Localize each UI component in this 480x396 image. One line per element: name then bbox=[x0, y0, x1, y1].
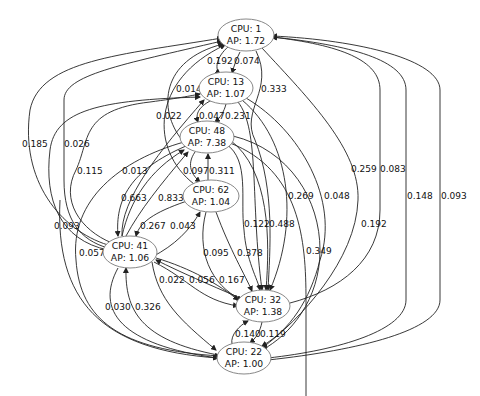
edge-weight-label: 0.185 bbox=[22, 139, 48, 149]
edge-weight-label: 0.097 bbox=[183, 166, 209, 176]
node-cpu-label: CPU: 41 bbox=[112, 240, 148, 251]
edge-weight-label: 0.333 bbox=[261, 84, 287, 94]
node-cpu-48[interactable]: CPU: 48 AP: 7.38 bbox=[180, 121, 234, 153]
edge-weight-label: 0.115 bbox=[77, 166, 103, 176]
edge-weight-label: 0.093 bbox=[441, 191, 467, 201]
edge-weight-label: 0.119 bbox=[260, 329, 286, 339]
node-cpu-label: CPU: 22 bbox=[226, 346, 262, 357]
edge-weight-label: 0.030 bbox=[105, 302, 131, 312]
edge-weight-label: 0.311 bbox=[209, 166, 235, 176]
node-cpu-41[interactable]: CPU: 41 AP: 1.06 bbox=[103, 236, 157, 268]
node-ap-label: AP: 1.07 bbox=[207, 88, 245, 99]
edge-weight-label: 0.231 bbox=[225, 111, 251, 121]
edge-weight-label: 0.349 bbox=[306, 246, 332, 256]
edge-weight-label: 0.056 bbox=[189, 275, 215, 285]
edge-weight-label: 0.167 bbox=[219, 275, 245, 285]
edge-weight-label: 0.378 bbox=[237, 248, 263, 258]
node-cpu-label: CPU: 1 bbox=[231, 23, 262, 34]
edge-weight-label: 0.326 bbox=[135, 302, 161, 312]
edge-weight-label: 0.014 bbox=[176, 84, 202, 94]
graph-canvas: 0.1920.0740.0140.3330.0220.0470.2310.185… bbox=[0, 0, 480, 396]
edge-weight-label: 0.043 bbox=[170, 221, 196, 231]
edge-weight-label: 0.488 bbox=[269, 219, 295, 229]
edge-weight-label: 0.192 bbox=[361, 219, 387, 229]
node-ap-label: AP: 7.38 bbox=[188, 137, 226, 148]
edge-weight-label: 0.026 bbox=[64, 139, 90, 149]
edge-weight-label: 0.057 bbox=[79, 248, 105, 258]
edge-weight-label: 0.022 bbox=[159, 275, 185, 285]
node-cpu-label: CPU: 13 bbox=[208, 76, 245, 87]
node-cpu-22[interactable]: CPU: 22 AP: 1.00 bbox=[217, 342, 271, 374]
node-ap-label: AP: 1.00 bbox=[225, 358, 263, 369]
node-ap-label: AP: 1.04 bbox=[192, 196, 230, 207]
edge-weight-label: 0.013 bbox=[122, 166, 148, 176]
edge-weight-label: 0.267 bbox=[140, 221, 166, 231]
edge-weight-label: 0.093 bbox=[54, 221, 80, 231]
edge-weight-label: 0.048 bbox=[324, 191, 350, 201]
edge-weight-label: 0.833 bbox=[158, 193, 184, 203]
edge-weight-label: 0.259 bbox=[351, 164, 377, 174]
edge-weight-label: 0.140 bbox=[235, 329, 261, 339]
node-cpu-label: CPU: 62 bbox=[193, 184, 229, 195]
edge bbox=[152, 212, 200, 257]
edge-weight-label: 0.074 bbox=[234, 56, 260, 66]
node-cpu-32[interactable]: CPU: 32 AP: 1.38 bbox=[236, 290, 290, 322]
node-cpu-62[interactable]: CPU: 62 AP: 1.04 bbox=[183, 180, 239, 212]
node-cpu-1[interactable]: CPU: 1 AP: 1.72 bbox=[218, 19, 274, 51]
edge-weight-label: 0.663 bbox=[121, 193, 147, 203]
edge-weight-label: 0.095 bbox=[203, 248, 229, 258]
node-cpu-13[interactable]: CPU: 13 AP: 1.07 bbox=[199, 72, 253, 104]
edge-weight-label: 0.122 bbox=[244, 219, 270, 229]
edge-weight-label: 0.192 bbox=[207, 56, 233, 66]
edge-weight-label: 0.047 bbox=[199, 111, 225, 121]
node-cpu-label: CPU: 32 bbox=[245, 294, 281, 305]
node-ap-label: AP: 1.06 bbox=[111, 252, 149, 263]
node-ap-label: AP: 1.38 bbox=[244, 306, 282, 317]
edge-weight-label: 0.148 bbox=[407, 191, 433, 201]
edge-weight-label: 0.269 bbox=[288, 191, 314, 201]
edge-weight-label: 0.022 bbox=[156, 111, 182, 121]
edge-weight-label: 0.083 bbox=[380, 164, 406, 174]
node-ap-label: AP: 1.72 bbox=[227, 35, 265, 46]
node-cpu-label: CPU: 48 bbox=[189, 125, 226, 136]
